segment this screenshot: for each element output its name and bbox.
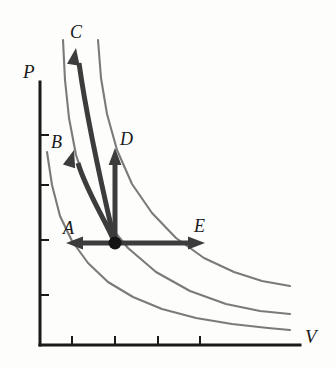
arrow-label-c: C (70, 23, 82, 41)
pv-diagram-figure: P V A B C D E (0, 0, 336, 369)
arrow-E-head (188, 237, 205, 250)
arrow-A (66, 237, 115, 250)
arrow-label-d: D (120, 130, 133, 148)
isotherm-high-curve (98, 40, 290, 286)
state-point-dot (109, 237, 122, 250)
x-axis-label: V (305, 327, 317, 346)
plot-canvas (0, 0, 336, 369)
arrow-label-e: E (194, 217, 205, 235)
process-arrows (63, 47, 205, 249)
arrow-label-b: B (51, 133, 62, 151)
arrow-C-shaft (79, 63, 115, 243)
arrow-label-a: A (63, 219, 74, 237)
y-axis-label: P (23, 62, 35, 81)
axes-group (40, 82, 300, 345)
arrow-B-shaft (78, 163, 115, 243)
arrow-A-head (66, 237, 83, 250)
